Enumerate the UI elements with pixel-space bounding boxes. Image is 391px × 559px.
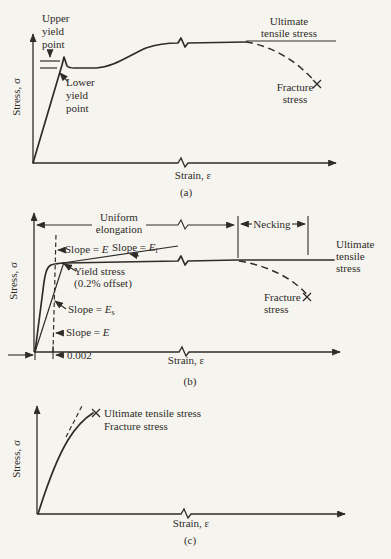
panel-b-ultimate-tensile-stress-label: Ultimate tensile stress (336, 238, 375, 274)
panel-c-fracture-stress-label: Fracture stress (104, 420, 168, 432)
slope-e-lower-label: Slope = E (66, 326, 110, 338)
label-line: point (42, 38, 65, 50)
label-line: Ultimate (270, 15, 309, 27)
panel-b-caption: (b) (184, 375, 197, 388)
offset-value-label: 0.002 (67, 349, 92, 361)
panel-a-x-axis-label: Strain, ε (175, 169, 212, 181)
uniform-elongation-right-arrow-with-break (146, 220, 234, 229)
label-line: stress (264, 303, 288, 315)
label-line: Lower (66, 76, 95, 88)
yield-stress-label: Yield stress (0.2% offset) (74, 265, 132, 290)
label-text: Slope = (112, 241, 149, 253)
panel-a-fracture-stress-label: Fracture stress (277, 81, 314, 105)
panel-a-post-necking-dashed-curve (246, 42, 315, 82)
label-text: Slope = (65, 243, 102, 255)
panel-a-stress-strain-curve (33, 38, 246, 163)
panel-b-fracture-x-marker (303, 293, 311, 301)
label-line: Ultimate (336, 238, 375, 250)
label-line: yield (42, 25, 64, 37)
label-line: stress (336, 262, 360, 274)
panel-c-ultimate-tensile-stress-label: Ultimate tensile stress (104, 407, 201, 419)
label-subscript: s (112, 308, 115, 317)
panel-b-x-axis-label: Strain, ε (168, 354, 205, 366)
label-line: Upper (42, 12, 70, 24)
panel-b-y-axis-label: Stress, σ (7, 262, 19, 300)
panel-a-ultimate-tensile-stress-label: Ultimate tensile stress (261, 15, 317, 39)
panel-a-upper-yield-label: Upper yield point (42, 12, 70, 50)
panel-b: Stress, σ Strain, ε (b) Uniform elongati… (7, 211, 375, 388)
label-symbol: E (101, 243, 109, 255)
panel-a: Stress, σ Strain, ε (a) Upper yield poin… (10, 12, 336, 199)
label-line: (0.2% offset) (74, 277, 132, 290)
slope-es-label: Slope = Es (68, 303, 115, 317)
label-line: elongation (96, 223, 143, 235)
label-line: tensile (336, 250, 365, 262)
label-line: Fracture (277, 81, 314, 93)
panel-a-y-axis-label: Stress, σ (10, 78, 22, 116)
slope-et-label: Slope = Et (112, 241, 159, 255)
slope-e-upper-label: Slope = E (65, 243, 109, 255)
label-line: yield (66, 89, 88, 101)
panel-c-stress-strain-curve (38, 413, 93, 514)
stress-strain-figure: Stress, σ Strain, ε (a) Upper yield poin… (0, 0, 391, 559)
label-symbol: E (102, 326, 110, 338)
label-line: Fracture (264, 291, 301, 303)
secant-modulus-line (35, 262, 64, 352)
panel-a-lower-yield-label: Lower yield point (66, 76, 95, 114)
label-text: Slope = (68, 303, 105, 315)
uniform-elongation-label: Uniform elongation (96, 211, 143, 235)
slope-es-arrow (55, 301, 66, 309)
panel-a-fracture-x-marker (313, 80, 321, 88)
necking-label: Necking (253, 218, 291, 230)
panel-c-x-axis-label: Strain, ε (173, 517, 210, 529)
label-line: Yield stress (74, 265, 125, 277)
panel-a-x-axis-with-break (33, 158, 336, 167)
slope-et-arrow (130, 254, 139, 256)
panel-c-linear-extension-dashed (66, 404, 83, 437)
figure-canvas: Stress, σ Strain, ε (a) Upper yield poin… (0, 0, 391, 559)
label-subscript: t (156, 246, 159, 255)
panel-c-y-axis-label: Stress, σ (10, 440, 22, 478)
label-line: stress (283, 93, 307, 105)
panel-b-fracture-stress-label: Fracture stress (264, 291, 301, 315)
panel-c-caption: (c) (184, 534, 197, 547)
label-text: Slope = (66, 326, 103, 338)
panel-b-post-necking-dashed-curve (239, 261, 307, 295)
label-line: tensile stress (261, 27, 317, 39)
panel-a-caption: (a) (180, 186, 193, 199)
label-line: Uniform (100, 211, 138, 223)
panel-c: Stress, σ Strain, ε (c) Ultimate tensile… (10, 404, 345, 547)
label-line: point (66, 102, 89, 114)
